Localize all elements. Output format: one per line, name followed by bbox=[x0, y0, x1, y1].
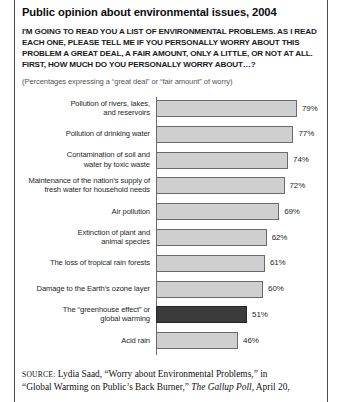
bar-row-label: Air pollution bbox=[18, 207, 150, 216]
bar-row-label: Damage to the Earth’s ozone layer bbox=[18, 284, 150, 293]
bar-row-label-line: Pollution of rivers, lakes, bbox=[18, 99, 150, 108]
bar-value-label: 74% bbox=[293, 155, 309, 164]
bar bbox=[156, 152, 288, 169]
source-line2-pre: “Global Warming on Public’s Back Burner,… bbox=[22, 382, 191, 392]
bar-row-label: Pollution of drinking water bbox=[18, 129, 150, 138]
bar bbox=[156, 203, 279, 220]
bar bbox=[156, 255, 265, 272]
bar-row-label-line: The loss of tropical rain forests bbox=[18, 258, 150, 267]
bar-row-label: The “greenhouse effect” orglobal warming bbox=[18, 305, 150, 324]
bar bbox=[156, 126, 293, 143]
bar-row-label-line: Contamination of soil and bbox=[18, 150, 150, 159]
percentage-note: (Percentages expressing a “great deal” o… bbox=[22, 77, 320, 87]
bar-row-label-line: global warming bbox=[18, 314, 150, 323]
bar-row-label-line: Pollution of drinking water bbox=[18, 129, 150, 138]
bar-value-label: 60% bbox=[268, 284, 284, 293]
survey-question-text: I'M GOING TO READ YOU A LIST OF ENVIRONM… bbox=[22, 26, 318, 70]
bar bbox=[156, 177, 285, 194]
bar bbox=[156, 229, 267, 246]
source-line1: Lydia Saad, “Worry about Environmental P… bbox=[55, 369, 267, 379]
bar bbox=[156, 332, 238, 349]
bar-row-label-line: Acid rain bbox=[18, 336, 150, 345]
bar-row-label-line: fresh water for household needs bbox=[18, 185, 150, 194]
bar-row-label-line: Extinction of plant and bbox=[18, 228, 150, 237]
bar-value-label: 46% bbox=[243, 336, 259, 345]
bar-value-label: 62% bbox=[272, 233, 288, 242]
source-line2-post: , April 20, bbox=[252, 382, 290, 392]
bar-row-label: Pollution of rivers, lakes,and reservoir… bbox=[18, 99, 150, 118]
bar-row-label: Contamination of soil andwater by toxic … bbox=[18, 150, 150, 169]
bar-value-label: 51% bbox=[252, 310, 268, 319]
source-publication: The Gallup Poll bbox=[191, 382, 251, 392]
bar-value-label: 79% bbox=[302, 104, 318, 113]
bar-row-label-line: The “greenhouse effect” or bbox=[18, 305, 150, 314]
bar-value-label: 61% bbox=[270, 258, 286, 267]
bar-highlighted bbox=[156, 306, 247, 323]
bar-value-label: 77% bbox=[298, 129, 314, 138]
bar-chart: Pollution of rivers, lakes,and reservoir… bbox=[0, 96, 340, 358]
bar-row-label: The loss of tropical rain forests bbox=[18, 258, 150, 267]
figure-container: Public opinion about environmental issue… bbox=[0, 0, 340, 402]
bar-row-label-line: animal species bbox=[18, 237, 150, 246]
bar-row-label: Maintenance of the nation’s supply offre… bbox=[18, 176, 150, 195]
bar-row-label-line: Damage to the Earth’s ozone layer bbox=[18, 284, 150, 293]
source-citation: SOURCE: Lydia Saad, “Worry about Environ… bbox=[22, 368, 324, 394]
bar-row-label-line: water by toxic waste bbox=[18, 160, 150, 169]
bar bbox=[156, 281, 263, 298]
bar-row-label-line: Air pollution bbox=[18, 207, 150, 216]
figure-title: Public opinion about environmental issue… bbox=[22, 0, 320, 19]
bar-row-label-line: Maintenance of the nation’s supply of bbox=[18, 176, 150, 185]
bar-row-label: Extinction of plant andanimal species bbox=[18, 228, 150, 247]
source-label: SOURCE: bbox=[22, 370, 55, 379]
bar-value-label: 69% bbox=[284, 207, 300, 216]
bar-row-label: Acid rain bbox=[18, 336, 150, 345]
bar-value-label: 72% bbox=[290, 181, 306, 190]
bar-row-label-line: and reservoirs bbox=[18, 108, 150, 117]
bar bbox=[156, 100, 297, 117]
header-block: Public opinion about environmental issue… bbox=[22, 0, 320, 87]
